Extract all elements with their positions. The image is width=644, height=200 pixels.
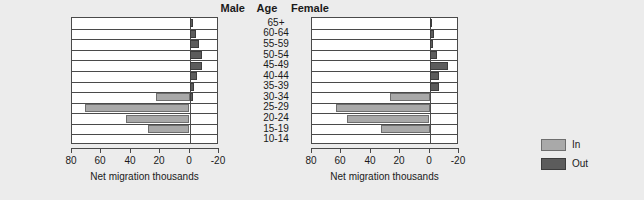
x-tick xyxy=(340,148,341,153)
x-tick xyxy=(370,148,371,153)
bar-male-in-20-24 xyxy=(126,115,189,123)
chart-panel-female xyxy=(311,17,458,144)
legend: In Out xyxy=(541,138,613,176)
legend-item-in: In xyxy=(541,138,613,154)
migration-pyramid-figure: Male Age Female 806040200-20 806040200-2… xyxy=(0,0,644,200)
bar-female-in-20-24 xyxy=(347,115,429,123)
legend-item-out: Out xyxy=(541,157,613,173)
row-separator xyxy=(312,29,457,30)
age-band-label-35-39: 35-39 xyxy=(245,80,307,91)
row-separator xyxy=(72,82,217,83)
bar-female-out-50-54 xyxy=(430,51,437,59)
axis-line xyxy=(311,148,458,149)
bar-male-in-30-34 xyxy=(156,93,190,101)
x-axis-male xyxy=(71,148,218,154)
row-separator xyxy=(312,60,457,61)
bar-female-in-25-29 xyxy=(336,104,430,112)
x-tick-label: -20 xyxy=(445,155,471,167)
legend-label-in: In xyxy=(572,139,580,151)
bar-male-out-60-64 xyxy=(190,30,196,38)
row-separator xyxy=(312,113,457,114)
axis-line xyxy=(71,148,218,149)
column-header-female: Female xyxy=(291,2,351,15)
age-band-column: 65+60-6455-5950-5445-4940-4435-3930-3425… xyxy=(245,17,307,144)
bar-female-out-65+ xyxy=(430,19,432,27)
bar-male-out-65+ xyxy=(190,19,193,27)
age-band-label-20-24: 20-24 xyxy=(245,112,307,123)
row-separator xyxy=(312,134,457,135)
x-axis-female xyxy=(311,148,458,154)
bar-male-out-50-54 xyxy=(190,51,202,59)
x-tick xyxy=(429,148,430,153)
x-tick xyxy=(189,148,190,153)
bar-male-out-30-34 xyxy=(190,93,193,101)
age-band-label-25-29: 25-29 xyxy=(245,101,307,112)
age-band-label-55-59: 55-59 xyxy=(245,38,307,49)
x-tick-label: 20 xyxy=(386,155,412,167)
bar-male-out-35-39 xyxy=(190,83,194,91)
bar-male-out-45-49 xyxy=(190,62,202,70)
bar-female-out-45-49 xyxy=(430,62,448,70)
x-tick-label: 60 xyxy=(87,155,113,167)
x-tick xyxy=(159,148,160,153)
x-axis-title-female: Net migration thousands xyxy=(311,171,458,183)
row-separator xyxy=(72,113,217,114)
x-tick-label: 40 xyxy=(357,155,383,167)
x-tick xyxy=(399,148,400,153)
x-tick xyxy=(100,148,101,153)
x-tick xyxy=(311,148,312,153)
row-separator xyxy=(72,92,217,93)
chart-panel-male xyxy=(71,17,218,144)
x-tick-label: 60 xyxy=(327,155,353,167)
column-header-age: Age xyxy=(251,2,283,15)
x-tick-label: 0 xyxy=(416,155,442,167)
row-separator xyxy=(312,39,457,40)
age-band-label-45-49: 45-49 xyxy=(245,59,307,70)
bar-female-out-35-39 xyxy=(430,83,439,91)
bar-male-out-55-59 xyxy=(190,40,199,48)
x-axis-title-male: Net migration thousands xyxy=(71,171,218,183)
legend-swatch-in xyxy=(541,139,566,151)
x-tick-label: 40 xyxy=(117,155,143,167)
bar-male-in-25-29 xyxy=(85,104,189,112)
column-header-male: Male xyxy=(201,2,245,15)
bar-male-out-40-44 xyxy=(190,72,197,80)
row-separator xyxy=(72,124,217,125)
age-band-label-10-14: 10-14 xyxy=(245,133,307,144)
bar-female-out-40-44 xyxy=(430,72,439,80)
x-tick-label: -20 xyxy=(205,155,231,167)
bar-female-in-15-19 xyxy=(381,125,430,133)
x-tick-label: 0 xyxy=(176,155,202,167)
x-tick-label: 20 xyxy=(146,155,172,167)
x-tick-label: 80 xyxy=(298,155,324,167)
legend-label-out: Out xyxy=(572,158,588,170)
bar-female-in-30-34 xyxy=(390,93,430,101)
bar-male-in-15-19 xyxy=(148,125,189,133)
x-tick xyxy=(71,148,72,153)
bar-female-out-55-59 xyxy=(430,40,433,48)
x-tick xyxy=(130,148,131,153)
x-tick xyxy=(458,148,459,153)
row-separator xyxy=(72,60,217,61)
plot-area-male xyxy=(71,17,218,144)
row-separator xyxy=(72,134,217,135)
age-band-label-60-64: 60-64 xyxy=(245,27,307,38)
x-tick xyxy=(218,148,219,153)
row-separator xyxy=(312,92,457,93)
legend-swatch-out xyxy=(541,158,566,170)
bar-female-out-60-64 xyxy=(430,30,434,38)
x-tick-label: 80 xyxy=(58,155,84,167)
plot-area-female xyxy=(311,17,458,144)
